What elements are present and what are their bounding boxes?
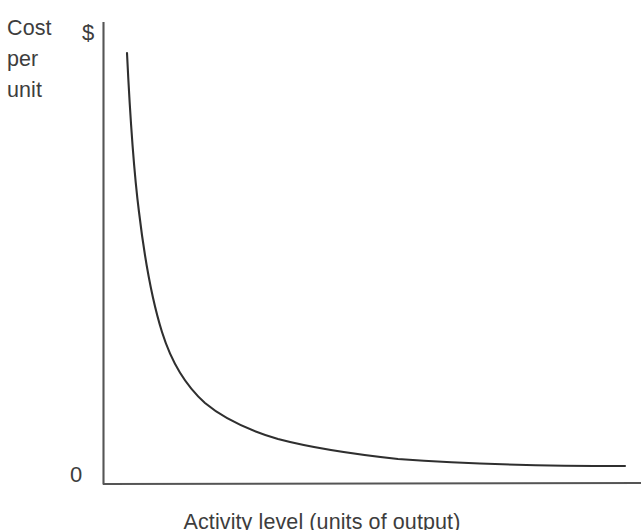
x-axis-title: Activity level (units of output) xyxy=(0,508,644,530)
chart-plot-area xyxy=(0,0,644,530)
chart-figure: Cost per unit $ 0 Activity level (units … xyxy=(0,0,644,530)
figure-background xyxy=(0,0,644,530)
y-axis-title-line-1: Cost xyxy=(7,13,79,44)
y-axis-title-line-2: per xyxy=(7,44,79,75)
x-axis-line xyxy=(103,483,641,484)
y-axis-title: Cost per unit xyxy=(7,13,79,106)
y-axis-unit-symbol: $ xyxy=(82,20,94,46)
y-axis-title-line-3: unit xyxy=(7,75,79,106)
y-axis-origin-tick-label: 0 xyxy=(70,462,82,488)
